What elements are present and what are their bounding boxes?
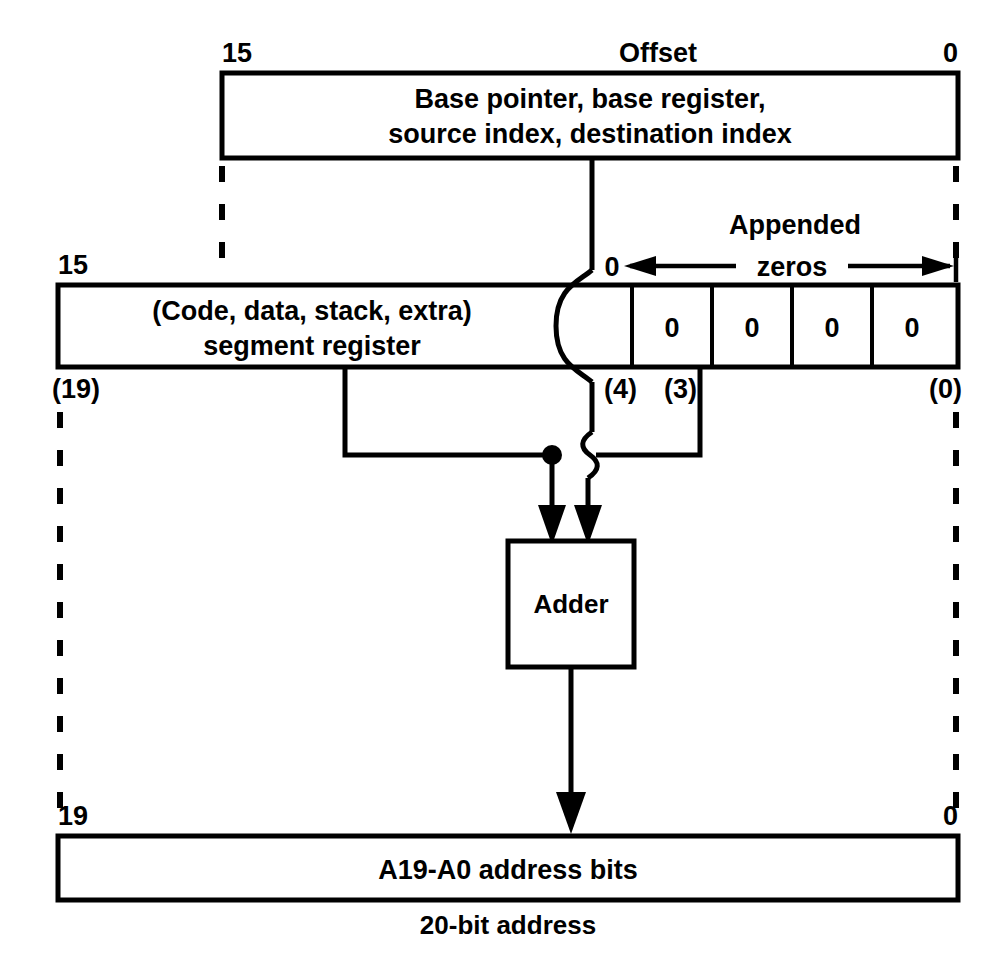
appended-zero-cell-3: 0 [824, 313, 839, 343]
segment-lower-bit-label-4: (4) [604, 374, 637, 404]
adder-label: Adder [533, 589, 608, 619]
segment-lower-bit-label-19: (19) [52, 374, 100, 404]
offset-register-line2: source index, destination index [388, 119, 792, 149]
appended-zeros-label-line2: zeros [757, 252, 828, 282]
offset-left-bit-label: 15 [222, 38, 252, 68]
address-bus-right-bit-label: 0 [943, 801, 958, 831]
diagram-canvas: 15 Offset 0 Base pointer, base register,… [0, 0, 1000, 957]
segment-left-bit-label: 15 [58, 250, 88, 280]
segment-register-line1: (Code, data, stack, extra) [152, 296, 472, 326]
appended-zero-cell-2: 0 [744, 313, 759, 343]
offset-caption: Offset [619, 38, 697, 68]
offset-register-line1: Base pointer, base register, [414, 84, 765, 114]
appended-zeros-arrowhead-right [922, 256, 954, 276]
bus-break-squiggle-lower [583, 432, 598, 478]
address-generation-diagram: 15 Offset 0 Base pointer, base register,… [0, 0, 1000, 957]
offset-right-bit-label: 0 [943, 38, 958, 68]
segment-register-line2: segment register [203, 331, 421, 361]
address-bus-left-bit-label: 19 [58, 801, 88, 831]
appended-zero-cell-4: 0 [904, 313, 919, 343]
segment-right-bit-label: 0 [604, 252, 619, 282]
address-bus-arrowhead [556, 792, 586, 834]
segment-lower-bit-label-0: (0) [929, 374, 962, 404]
appended-zeros-arrowhead-left [624, 256, 656, 276]
appended-zero-cell-1: 0 [664, 313, 679, 343]
address-bus-caption: 20-bit address [420, 910, 596, 940]
segment-lower-bit-label-3: (3) [664, 374, 697, 404]
appended-zeros-label-line1: Appended [729, 210, 861, 240]
address-bus-label: A19-A0 address bits [378, 855, 638, 885]
segment-register-output-wire-left [345, 367, 552, 455]
